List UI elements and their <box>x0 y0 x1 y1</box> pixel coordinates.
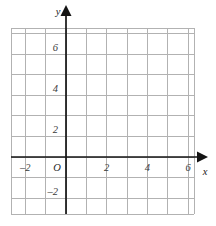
y-tick-label: 2 <box>53 124 59 135</box>
y-tick-label: –2 <box>47 186 59 197</box>
y-axis-label: y <box>55 6 61 17</box>
origin-label: O <box>53 162 61 173</box>
x-axis-label: x <box>202 166 208 177</box>
x-tick-label: 2 <box>104 162 110 173</box>
x-tick-label: –2 <box>19 162 31 173</box>
y-tick-label: 4 <box>53 83 59 94</box>
coordinate-grid-figure: –2 2 4 6 6 4 2 –2 O y x <box>0 0 216 226</box>
x-tick-label: 4 <box>145 162 151 173</box>
y-tick-label: 6 <box>53 42 59 53</box>
coordinate-plane-svg: –2 2 4 6 6 4 2 –2 O y x <box>0 0 216 226</box>
x-tick-label: 6 <box>185 162 191 173</box>
